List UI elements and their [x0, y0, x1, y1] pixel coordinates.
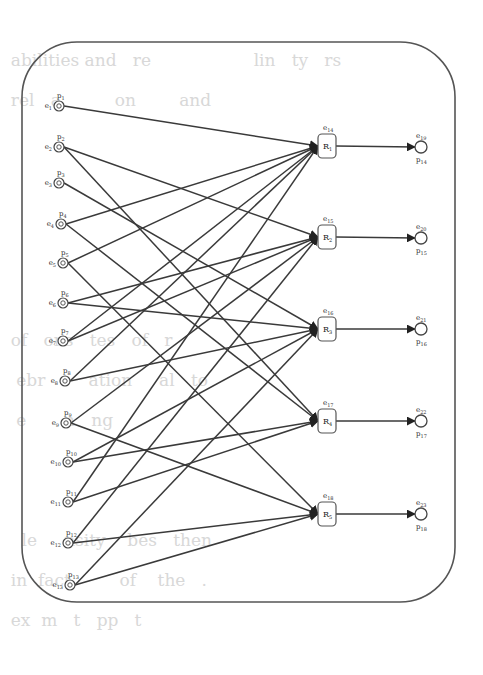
edge-e7-R1	[68, 146, 318, 341]
output-prob-o3: p16	[416, 338, 427, 347]
input-prob-e4: p4	[59, 210, 67, 219]
input-prob-e1: p1	[57, 92, 65, 101]
input-node-e3	[54, 178, 64, 188]
input-label-e7: e7	[49, 337, 56, 346]
input-label-e11: e11	[50, 498, 61, 507]
diagram-frame	[22, 42, 455, 602]
input-node-e11	[63, 497, 73, 507]
relay-top-label-R4: e17	[323, 399, 334, 408]
output-prob-o4: p17	[416, 430, 427, 439]
output-node-o3	[415, 323, 427, 335]
output-label-o5: e23	[416, 499, 427, 508]
input-label-e6: e6	[49, 299, 56, 308]
relay-top-label-R3: e16	[323, 307, 334, 316]
edge-group	[64, 106, 415, 585]
input-prob-e5: p5	[61, 249, 69, 258]
output-prob-o2: p15	[416, 247, 427, 256]
input-node-e5	[58, 258, 68, 268]
edge-e11-R4	[73, 421, 318, 502]
edge-R1-o1	[336, 146, 415, 147]
edge-e12-R5	[73, 514, 318, 543]
input-prob-e2: p2	[57, 133, 65, 142]
relay-top-label-R2: e15	[323, 215, 334, 224]
input-label-e12: e12	[50, 539, 61, 548]
input-node-e9	[61, 418, 71, 428]
output-label-o3: e21	[416, 314, 427, 323]
input-label-e1: e1	[45, 102, 52, 111]
output-node-o4	[415, 415, 427, 427]
input-prob-e3: p3	[57, 169, 65, 178]
relay-top-label-R5: e18	[323, 492, 334, 501]
edge-e6-R2	[68, 237, 318, 303]
output-node-o1	[415, 141, 427, 153]
output-prob-o1: p14	[416, 156, 427, 165]
input-label-e13: e13	[52, 581, 63, 590]
network-diagram: e1p1e2p2e3p3e4p4e5p5e6p6e7p7e8p8e9p9e10p…	[0, 0, 483, 675]
edge-e4-R1	[66, 146, 318, 224]
relay-top-label-R1: e14	[323, 124, 334, 133]
input-prob-e12: p12	[66, 529, 77, 538]
input-label-e4: e4	[47, 220, 54, 229]
output-label-o2: e20	[416, 223, 427, 232]
output-prob-o5: p18	[416, 523, 427, 532]
edge-e5-R5	[68, 263, 318, 514]
input-label-e5: e5	[49, 259, 56, 268]
input-prob-e10: p10	[66, 448, 77, 457]
input-node-e7	[58, 336, 68, 346]
input-node-e10	[63, 457, 73, 467]
output-node-o2	[415, 232, 427, 244]
input-node-e2	[54, 142, 64, 152]
input-prob-e7: p7	[61, 327, 69, 336]
output-label-o1: e19	[416, 132, 427, 141]
input-label-e8: e8	[51, 377, 58, 386]
input-label-e9: e9	[52, 419, 59, 428]
edge-e1-R1	[64, 106, 318, 146]
input-prob-e8: p8	[63, 367, 71, 376]
edge-e13-R3	[75, 329, 318, 585]
edge-e8-R1	[70, 146, 318, 381]
input-node-e13	[65, 580, 75, 590]
input-node-e1	[54, 101, 64, 111]
edge-e5-R1	[68, 146, 318, 263]
input-label-e10: e10	[50, 458, 61, 467]
edge-e2-R2	[64, 147, 318, 237]
output-node-o5	[415, 508, 427, 520]
input-node-e12	[63, 538, 73, 548]
input-label-e2: e2	[45, 143, 52, 152]
input-prob-e11: p11	[66, 488, 77, 497]
edge-e4-R4	[66, 224, 318, 421]
input-prob-e13: p13	[68, 571, 79, 580]
input-prob-e6: p6	[61, 289, 69, 298]
input-label-e3: e3	[45, 179, 52, 188]
edge-R2-o2	[336, 237, 415, 238]
edge-e9-R2	[71, 237, 318, 423]
edge-e8-R3	[70, 329, 318, 381]
edge-e12-R2	[73, 237, 318, 543]
input-prob-e9: p9	[64, 409, 72, 418]
input-node-e8	[60, 376, 70, 386]
output-label-o4: e22	[416, 406, 427, 415]
input-node-e4	[56, 219, 66, 229]
input-node-e6	[58, 298, 68, 308]
node-group: e1p1e2p2e3p3e4p4e5p5e6p6e7p7e8p8e9p9e10p…	[45, 92, 427, 590]
edge-e13-R5	[75, 514, 318, 585]
